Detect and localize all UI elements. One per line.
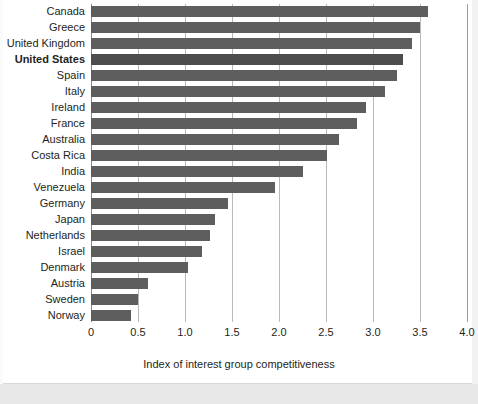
bar-germany bbox=[91, 198, 228, 209]
category-label-spain: Spain bbox=[0, 70, 85, 81]
category-label-netherlands: Netherlands bbox=[0, 230, 85, 241]
bar-israel bbox=[91, 246, 202, 257]
bar-netherlands bbox=[91, 230, 210, 241]
bar-spain bbox=[91, 70, 397, 81]
x-tick-2.0: 2.0 bbox=[271, 326, 286, 338]
bar-row bbox=[91, 180, 467, 196]
category-label-greece: Greece bbox=[0, 22, 85, 33]
bar-row bbox=[91, 132, 467, 148]
bar-venezuela bbox=[91, 182, 275, 193]
bar-row bbox=[91, 52, 467, 68]
bar-row bbox=[91, 36, 467, 52]
bar-ireland bbox=[91, 102, 366, 113]
bar-norway bbox=[91, 310, 131, 321]
bar-row bbox=[91, 244, 467, 260]
category-label-germany: Germany bbox=[0, 198, 85, 209]
bar-canada bbox=[91, 6, 428, 17]
bar-united-states bbox=[91, 54, 403, 65]
page-edge-bottom bbox=[0, 384, 478, 404]
category-label-japan: Japan bbox=[0, 214, 85, 225]
bar-row bbox=[91, 164, 467, 180]
category-label-column: CanadaGreeceUnited KingdomUnited StatesS… bbox=[0, 4, 85, 322]
category-label-costa-rica: Costa Rica bbox=[0, 150, 85, 161]
bar-greece bbox=[91, 22, 420, 33]
x-tick-0: 0 bbox=[88, 326, 94, 338]
bar-row bbox=[91, 84, 467, 100]
bar-chart: CanadaGreeceUnited KingdomUnited StatesS… bbox=[0, 0, 478, 384]
category-label-united-kingdom: United Kingdom bbox=[0, 38, 85, 49]
category-label-israel: Israel bbox=[0, 246, 85, 257]
category-label-ireland: Ireland bbox=[0, 102, 85, 113]
bar-row bbox=[91, 4, 467, 20]
chart-page: CanadaGreeceUnited KingdomUnited StatesS… bbox=[0, 0, 478, 404]
bar-united-kingdom bbox=[91, 38, 412, 49]
bar-row bbox=[91, 20, 467, 36]
category-label-norway: Norway bbox=[0, 310, 85, 321]
bar-row bbox=[91, 212, 467, 228]
bar-japan bbox=[91, 214, 215, 225]
bar-row bbox=[91, 260, 467, 276]
category-label-australia: Australia bbox=[0, 134, 85, 145]
category-label-united-states: United States bbox=[0, 54, 85, 65]
bar-row bbox=[91, 292, 467, 308]
category-label-venezuela: Venezuela bbox=[0, 182, 85, 193]
category-label-austria: Austria bbox=[0, 278, 85, 289]
plot-area bbox=[91, 4, 467, 322]
bar-italy bbox=[91, 86, 385, 97]
bar-row bbox=[91, 116, 467, 132]
bar-australia bbox=[91, 134, 339, 145]
bar-row bbox=[91, 68, 467, 84]
bar-row bbox=[91, 228, 467, 244]
x-axis-title: Index of interest group competitiveness bbox=[0, 358, 478, 370]
category-label-india: India bbox=[0, 166, 85, 177]
bar-row bbox=[91, 196, 467, 212]
category-label-italy: Italy bbox=[0, 86, 85, 97]
category-label-canada: Canada bbox=[0, 6, 85, 17]
x-tick-1.5: 1.5 bbox=[224, 326, 239, 338]
bar-row bbox=[91, 100, 467, 116]
bar-austria bbox=[91, 278, 148, 289]
bar-costa-rica bbox=[91, 150, 327, 161]
bar-row bbox=[91, 308, 467, 324]
x-tick-4.0: 4.0 bbox=[459, 326, 474, 338]
bar-row bbox=[91, 148, 467, 164]
x-tick-2.5: 2.5 bbox=[318, 326, 333, 338]
category-label-france: France bbox=[0, 118, 85, 129]
bar-india bbox=[91, 166, 303, 177]
bar-row bbox=[91, 276, 467, 292]
x-tick-3.5: 3.5 bbox=[412, 326, 427, 338]
x-tick-0.5: 0.5 bbox=[130, 326, 145, 338]
bar-denmark bbox=[91, 262, 188, 273]
gridline-4.0 bbox=[467, 4, 468, 322]
category-label-sweden: Sweden bbox=[0, 294, 85, 305]
bar-sweden bbox=[91, 294, 138, 305]
x-tick-1.0: 1.0 bbox=[177, 326, 192, 338]
category-label-denmark: Denmark bbox=[0, 262, 85, 273]
bar-france bbox=[91, 118, 357, 129]
x-tick-3.0: 3.0 bbox=[365, 326, 380, 338]
